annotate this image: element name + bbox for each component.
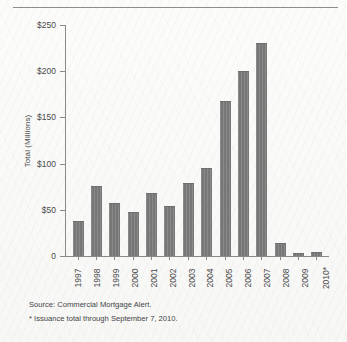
figure-footer: Source: Commercial Mortgage Alert. * Iss… — [29, 300, 329, 329]
bar-slot — [161, 25, 179, 256]
bar-slot — [216, 25, 234, 256]
asterisk-footnote: * Issuance total through September 7, 20… — [29, 314, 329, 324]
bar-slot — [179, 25, 197, 256]
y-axis-title: Total (Millions) — [23, 115, 32, 168]
bar-slot — [271, 25, 289, 256]
x-label-slot: 2006 — [239, 261, 258, 283]
bar-slot — [198, 25, 216, 256]
bar — [220, 101, 231, 256]
x-label-slot: 2004 — [201, 261, 220, 283]
x-label-slot: 2002 — [164, 261, 183, 283]
x-label-slot: 2001 — [145, 261, 164, 283]
x-tick-label: 2010* — [321, 267, 331, 289]
bar — [164, 206, 175, 256]
x-axis-line — [65, 256, 329, 257]
bar — [238, 71, 249, 256]
bar — [201, 168, 212, 256]
bar-slot — [253, 25, 271, 256]
x-axis-labels: 1997 1998 1999 2000 2001 2002 2003 2004 … — [65, 261, 329, 283]
x-label-slot: 2005 — [220, 261, 239, 283]
x-label-slot: 2007 — [258, 261, 277, 283]
x-label-slot: 1997 — [69, 261, 88, 283]
x-tick-label: 2004 — [206, 269, 216, 288]
y-tick-label: $250 — [37, 20, 56, 30]
x-label-slot: 1998 — [88, 261, 107, 283]
source-note: Source: Commercial Mortgage Alert. — [29, 300, 329, 310]
y-tick-label: $100 — [37, 159, 56, 169]
bar-slot — [308, 25, 326, 256]
x-tick-label: 2003 — [187, 269, 197, 288]
bar — [73, 221, 84, 256]
x-tick-label: 2008 — [282, 269, 292, 288]
top-divider — [13, 7, 338, 8]
bar — [256, 43, 267, 256]
x-tick-label: 1997 — [73, 269, 83, 288]
x-tick-label: 2006 — [244, 269, 254, 288]
y-tick-label: $150 — [37, 112, 56, 122]
x-label-slot: 2008 — [277, 261, 296, 283]
x-tick-label: 2005 — [225, 269, 235, 288]
x-tick-label: 1999 — [111, 269, 121, 288]
x-tick-label: 2007 — [263, 269, 273, 288]
bar — [91, 186, 102, 256]
bar-slot — [234, 25, 252, 256]
chart-figure: Total (Millions) $250 $200 $150 $100 $50… — [0, 0, 347, 342]
bar-slot — [69, 25, 87, 256]
y-tick-label: 0 — [51, 251, 56, 261]
bar — [109, 203, 120, 256]
bar — [146, 193, 157, 256]
x-label-slot: 2003 — [183, 261, 202, 283]
x-tick-label: 2000 — [130, 269, 140, 288]
bar-slot — [142, 25, 160, 256]
bar — [275, 243, 286, 256]
x-label-slot: 1999 — [107, 261, 126, 283]
x-label-slot: 2009 — [296, 261, 315, 283]
bar — [183, 183, 194, 256]
y-tick-label: $50 — [42, 205, 56, 215]
x-tick-label: 2009 — [301, 269, 311, 288]
bar-slot — [87, 25, 105, 256]
y-tick-label: $200 — [37, 66, 56, 76]
x-label-slot: 2010* — [315, 261, 337, 283]
bar-slot — [124, 25, 142, 256]
x-label-slot: 2000 — [126, 261, 145, 283]
bar-slot — [289, 25, 307, 256]
x-tick-label: 1998 — [92, 269, 102, 288]
x-tick-label: 2001 — [149, 269, 159, 288]
x-tick-label: 2002 — [168, 269, 178, 288]
bar-series — [65, 25, 329, 256]
bar — [128, 212, 139, 256]
bar-slot — [106, 25, 124, 256]
